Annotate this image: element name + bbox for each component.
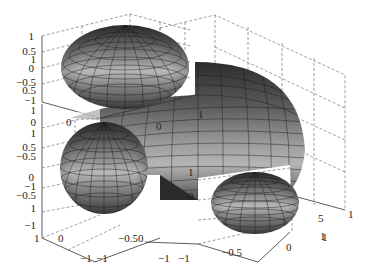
svg-text:−1: −1	[96, 252, 108, 264]
svg-text:1: 1	[31, 202, 37, 214]
svg-text:−1: −1	[158, 252, 170, 264]
svg-text:0: 0	[286, 241, 292, 253]
z-axis-tick-labels: 1 0.5 1 0 −0.5 0.5 −1 1 0 1 0.5 −0.5 0 −…	[16, 30, 36, 231]
svg-text:1: 1	[198, 108, 204, 120]
svg-text:0: 0	[138, 232, 144, 244]
svg-text:5: 5	[318, 212, 324, 224]
svg-text:0: 0	[66, 116, 72, 128]
svg-text:−1: −1	[24, 219, 36, 231]
bottom-left-tick-labels: 1 0 −1	[34, 232, 92, 264]
plot-canvas: 1 0.5 1 0 −0.5 0.5 −1 1 0 1 0.5 −0.5 0 −…	[0, 0, 369, 272]
right-tick-labels: 1 5 1	[318, 208, 354, 243]
top-left-axes	[40, 12, 195, 118]
svg-text:1: 1	[322, 231, 328, 243]
svg-text:−1: −1	[80, 252, 92, 264]
svg-text:1: 1	[34, 232, 40, 244]
svg-text:−0.5: −0.5	[16, 189, 36, 201]
svg-text:−0.5: −0.5	[222, 246, 242, 258]
svg-text:1: 1	[29, 30, 35, 42]
svg-text:1: 1	[188, 166, 194, 178]
svg-text:0: 0	[58, 232, 64, 244]
svg-text:1: 1	[31, 104, 37, 116]
svg-text:−0.5: −0.5	[118, 232, 138, 244]
svg-text:0: 0	[156, 120, 162, 132]
svg-text:−0.5: −0.5	[16, 150, 36, 162]
svg-text:1: 1	[348, 208, 354, 220]
svg-text:0: 0	[188, 190, 194, 202]
figure-3d-spheres: 1 0.5 1 0 −0.5 0.5 −1 1 0 1 0.5 −0.5 0 −…	[0, 0, 369, 272]
svg-text:0: 0	[29, 62, 35, 74]
svg-text:1: 1	[31, 127, 37, 139]
svg-text:−1: −1	[178, 252, 190, 264]
